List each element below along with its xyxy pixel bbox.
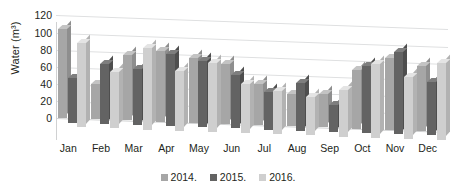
legend-swatch-icon [161, 174, 168, 181]
bar-jul-2014 [254, 84, 263, 125]
x-tick-apr: Apr [150, 141, 183, 155]
bar-face [58, 29, 67, 118]
bar-face [166, 54, 175, 126]
bar-group-jul [252, 8, 285, 138]
legend-label: 2016. [269, 172, 295, 183]
y-tick-0: 0 [46, 113, 52, 123]
bar-face [385, 58, 394, 130]
legend-item-2016[interactable]: 2016. [259, 172, 295, 183]
bar-group-dec [415, 8, 448, 138]
x-tick-may: May [183, 141, 216, 155]
y-tick-80: 80 [40, 45, 52, 55]
bar-face [77, 43, 86, 128]
bar-may-2014 [189, 58, 198, 123]
bar-face [404, 77, 413, 139]
bar-may-2015 [198, 61, 207, 128]
bar-jul-2016 [273, 91, 282, 134]
bar-face [254, 84, 263, 125]
bar-face [417, 66, 426, 131]
x-tick-jun: Jun [215, 141, 248, 155]
bar-may-2016 [208, 63, 217, 132]
bar-nov-2014 [385, 58, 394, 130]
bar-side [446, 55, 450, 136]
legend-item-2015[interactable]: 2015. [210, 172, 246, 183]
bar-face [339, 90, 348, 136]
x-tick-dec: Dec [411, 141, 444, 155]
bar-aug-2015 [296, 83, 305, 131]
bar-face [68, 78, 77, 122]
x-tick-nov: Nov [379, 141, 412, 155]
bar-sep-2015 [329, 105, 338, 132]
bar-group-oct [350, 8, 383, 138]
legend-swatch-icon [210, 174, 217, 181]
bar-feb-2015 [100, 64, 109, 124]
bar-group-may [187, 8, 220, 138]
bar-face [427, 82, 436, 135]
bar-jul-2015 [264, 92, 273, 130]
bar-face [100, 64, 109, 124]
bar-mar-2015 [133, 69, 142, 125]
bar-group-sep [317, 8, 350, 138]
bar-group-feb [89, 8, 122, 138]
y-axis-tick-labels: 020406080100120 [26, 0, 52, 192]
y-axis-title: Water (m³) [9, 0, 25, 98]
bar-sep-2014 [319, 94, 328, 127]
x-tick-oct: Oct [346, 141, 379, 155]
bar-face [110, 72, 119, 128]
bar-jan-2015 [68, 78, 77, 122]
bar-group-apr [154, 8, 187, 138]
bar-jan-2014 [58, 29, 67, 118]
bar-face [175, 71, 184, 131]
bar-group-jan [56, 8, 89, 138]
bar-nov-2016 [404, 77, 413, 139]
bar-jun-2014 [221, 64, 230, 124]
bar-jun-2015 [231, 75, 240, 128]
bar-apr-2016 [175, 71, 184, 131]
bar-face [264, 92, 273, 130]
legend-swatch-icon [259, 174, 266, 181]
y-tick-60: 60 [40, 62, 52, 72]
bar-aug-2016 [306, 97, 315, 135]
bar-face [221, 64, 230, 124]
x-tick-sep: Sep [313, 141, 346, 155]
bar-group-aug [285, 8, 318, 138]
legend-label: 2014. [171, 172, 197, 183]
bar-sep-2016 [339, 90, 348, 136]
x-tick-jul: Jul [248, 141, 281, 155]
bar-face [437, 63, 446, 140]
bar-face [189, 58, 198, 123]
bar-aug-2014 [287, 94, 296, 126]
y-tick-120: 120 [34, 10, 52, 20]
bar-feb-2016 [110, 72, 119, 128]
bar-face [371, 64, 380, 138]
bar-face [241, 84, 250, 133]
bar-face [123, 55, 132, 120]
bar-jan-2016 [77, 43, 86, 128]
bar-dec-2015 [427, 82, 436, 135]
bar-apr-2015 [166, 54, 175, 126]
bar-oct-2015 [362, 66, 371, 133]
bar-face [133, 69, 142, 125]
bar-oct-2016 [371, 64, 380, 138]
bar-face [198, 61, 207, 128]
bar-dec-2016 [437, 63, 446, 140]
y-tick-40: 40 [40, 79, 52, 89]
bar-apr-2014 [156, 51, 165, 121]
x-tick-feb: Feb [85, 141, 118, 155]
bar-face [329, 105, 338, 132]
x-tick-jan: Jan [52, 141, 85, 155]
bar-mar-2014 [123, 55, 132, 120]
y-tick-20: 20 [40, 96, 52, 106]
bar-face [156, 51, 165, 121]
legend-item-2014[interactable]: 2014. [161, 172, 197, 183]
bar-face [319, 94, 328, 127]
bar-face [273, 91, 282, 134]
bar-face [91, 84, 100, 119]
bar-face [296, 83, 305, 131]
bar-face [287, 94, 296, 126]
bar-chart: Water (m³) 020406080100120 JanFebMarAprM… [0, 0, 456, 192]
bar-face [231, 75, 240, 128]
bar-feb-2014 [91, 84, 100, 119]
bar-face [143, 48, 152, 129]
bar-dec-2014 [417, 66, 426, 131]
